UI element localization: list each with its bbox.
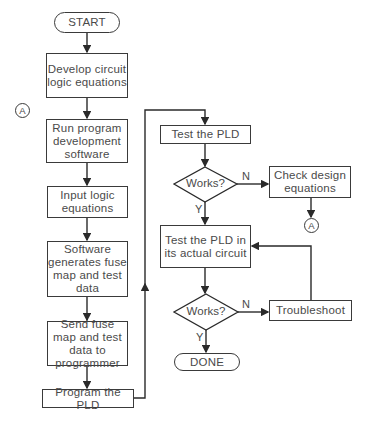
- troubleshoot-step: Troubleshoot: [269, 300, 352, 321]
- decision-2-label: Works?: [174, 305, 238, 317]
- connector-a-left: A: [15, 103, 30, 118]
- decision-2-yes-label: Y: [196, 331, 203, 343]
- decision-1-label: Works?: [174, 177, 237, 189]
- decision-1-no-label: N: [242, 170, 250, 182]
- connector-a-right: A: [304, 218, 319, 233]
- done-terminal: DONE: [174, 353, 240, 371]
- develop-equations-step: Develop circuit logic equations: [46, 53, 128, 98]
- software-generates-step: Software generates fuse map and test dat…: [47, 241, 128, 297]
- start-terminal: START: [54, 12, 120, 33]
- decision-1-yes-label: Y: [195, 203, 202, 215]
- check-design-step: Check design equations: [269, 166, 351, 198]
- send-fuse-map-step: Send fuse map and test data to programme…: [47, 321, 128, 366]
- test-pld-step: Test the PLD: [160, 125, 251, 144]
- test-actual-circuit-step: Test the PLD in its actual circuit: [160, 225, 251, 268]
- run-software-step: Run program development software: [46, 119, 128, 163]
- program-pld-step: Program the PLD: [42, 389, 134, 408]
- input-equations-step: Input logic equations: [47, 186, 128, 218]
- decision-2-no-label: N: [242, 298, 250, 310]
